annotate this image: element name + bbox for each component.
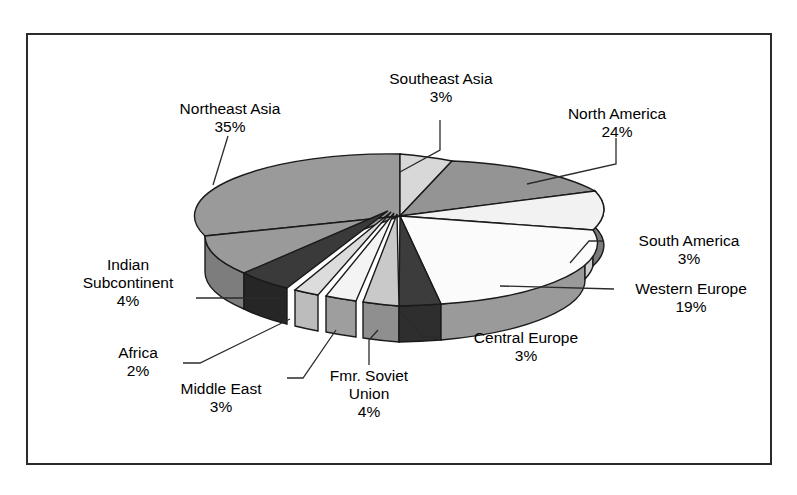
slice-label-southeast-asia-pct: 3% — [353, 88, 529, 106]
slice-side-central-europe — [399, 304, 441, 342]
slice-label-indian-subcontinent-name-line2: Subcontinent — [58, 274, 198, 292]
slice-label-central-europe-pct: 3% — [440, 347, 612, 365]
slice-side-middle-east — [326, 296, 356, 337]
slice-label-south-america: South America 3% — [609, 232, 769, 268]
slice-label-south-america-pct: 3% — [609, 250, 769, 268]
slice-label-north-america-name: North America — [568, 105, 666, 122]
slice-label-western-europe-name: Western Europe — [635, 280, 747, 297]
leader-line-northeast-asia — [213, 136, 228, 185]
slice-label-indian-subcontinent-name-line1: Indian — [107, 256, 149, 273]
slice-side-fmr-soviet-union — [363, 302, 399, 342]
slice-label-indian-subcontinent-pct: 4% — [58, 292, 198, 310]
slice-label-south-america-name: South America — [639, 232, 740, 249]
slice-label-fmr-soviet-union-name-line2: Union — [303, 385, 435, 403]
pie-chart-figure: Northeast Asia 35% Southeast Asia 3% Nor… — [0, 0, 797, 495]
slice-label-middle-east-pct: 3% — [155, 398, 287, 416]
slice-label-africa: Africa 2% — [92, 344, 184, 380]
slice-label-western-europe: Western Europe 19% — [609, 280, 773, 316]
slice-label-central-europe-name: Central Europe — [474, 329, 578, 346]
slice-label-africa-pct: 2% — [92, 362, 184, 380]
slice-label-southeast-asia-name: Southeast Asia — [389, 70, 492, 87]
slice-label-africa-name: Africa — [118, 344, 158, 361]
slice-label-north-america: North America 24% — [530, 105, 704, 141]
slice-label-fmr-soviet-union-pct: 4% — [303, 403, 435, 421]
slice-label-western-europe-pct: 19% — [609, 298, 773, 316]
slice-label-middle-east: Middle East 3% — [155, 380, 287, 416]
slice-side-africa — [295, 290, 318, 331]
slice-label-middle-east-name: Middle East — [181, 380, 262, 397]
leader-line-africa — [183, 319, 290, 363]
slice-label-northeast-asia-name: Northeast Asia — [180, 100, 281, 117]
slice-label-northeast-asia: Northeast Asia 35% — [140, 100, 320, 136]
slice-label-north-america-pct: 24% — [530, 123, 704, 141]
slice-label-indian-subcontinent: Indian Subcontinent 4% — [58, 256, 198, 310]
slice-label-southeast-asia: Southeast Asia 3% — [353, 70, 529, 106]
slice-label-northeast-asia-pct: 35% — [140, 118, 320, 136]
slice-label-fmr-soviet-union-name-line1: Fmr. Soviet — [330, 367, 408, 384]
slice-label-central-europe: Central Europe 3% — [440, 329, 612, 365]
slice-label-fmr-soviet-union: Fmr. Soviet Union 4% — [303, 367, 435, 421]
